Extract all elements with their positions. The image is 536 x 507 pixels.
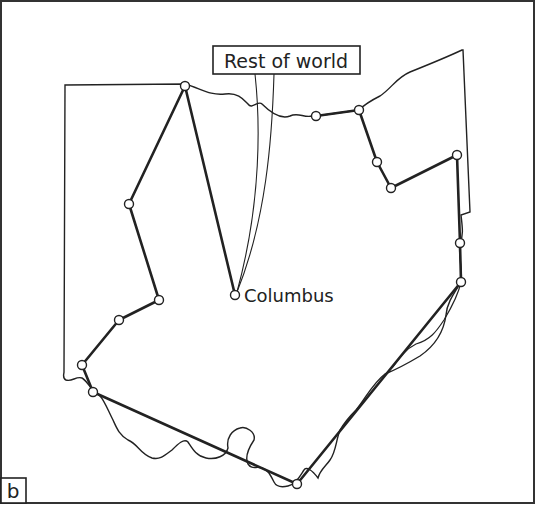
panel-label: b xyxy=(7,479,20,503)
columbus-node xyxy=(231,291,240,300)
ohio-tour-diagram: Rest of world Columbus b xyxy=(0,0,536,507)
state-outline xyxy=(64,50,471,487)
tour-node xyxy=(457,278,466,287)
tour-node xyxy=(89,388,98,397)
tour-node xyxy=(155,296,164,305)
rest-of-world-label: Rest of world xyxy=(224,50,348,72)
tour-node xyxy=(456,239,465,248)
tour-node xyxy=(115,316,124,325)
callout-leader-left xyxy=(237,74,258,292)
tour-node xyxy=(293,480,302,489)
tour-node xyxy=(125,200,134,209)
tour-node xyxy=(78,361,87,370)
tour-node xyxy=(373,158,382,167)
callout-leader-right xyxy=(237,74,274,292)
tour-node xyxy=(453,151,462,160)
tour-node xyxy=(387,184,396,193)
tour-node xyxy=(355,106,364,115)
tour-node xyxy=(181,82,190,91)
tour-node xyxy=(312,112,321,121)
columbus-label: Columbus xyxy=(244,285,334,306)
figure-frame xyxy=(1,1,534,503)
